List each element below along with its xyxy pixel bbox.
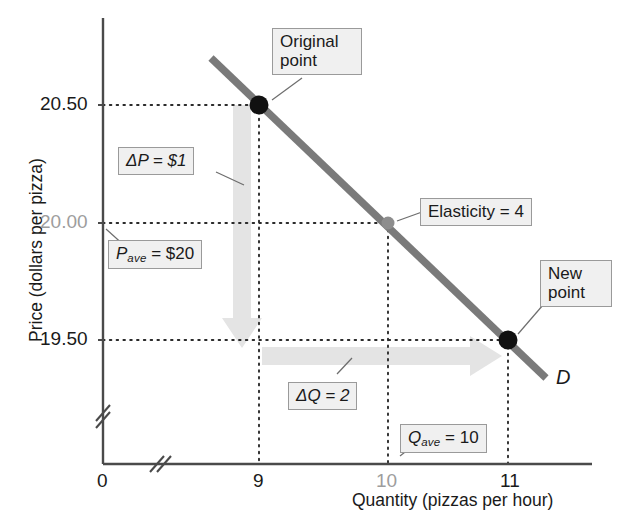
leader-original-point bbox=[272, 78, 302, 100]
y-tick-2000: 20.00 bbox=[40, 211, 88, 233]
callout-p-ave-subscript: ave bbox=[127, 252, 146, 264]
callout-elasticity-text: Elasticity = 4 bbox=[428, 202, 524, 221]
callout-elasticity[interactable]: Elasticity = 4 bbox=[420, 198, 532, 226]
delta-q-arrow bbox=[262, 336, 502, 376]
callout-q-ave-value: = 10 bbox=[440, 428, 478, 447]
callout-original-point[interactable]: Original point bbox=[272, 28, 362, 75]
callout-p-ave-symbol: P bbox=[116, 244, 127, 263]
y-axis-title: Price (dollars per pizza) bbox=[26, 158, 47, 342]
y-tick-2050: 20.50 bbox=[40, 93, 88, 115]
chart-svg bbox=[0, 0, 624, 522]
callout-delta-p[interactable]: ΔP = $1 bbox=[118, 147, 194, 175]
y-tick-1950: 19.50 bbox=[40, 328, 88, 350]
callout-q-ave-symbol: Q bbox=[408, 428, 421, 447]
x-tick-0: 0 bbox=[97, 470, 108, 492]
callout-new-point[interactable]: New point bbox=[540, 260, 612, 307]
callout-delta-q-text: ΔQ = 2 bbox=[296, 386, 349, 405]
callout-original-point-line2: point bbox=[280, 51, 354, 70]
data-point-new[interactable] bbox=[499, 331, 518, 350]
callout-q-ave-subscript: ave bbox=[421, 436, 440, 448]
leader-elasticity bbox=[397, 212, 422, 221]
x-axis-title: Quantity (pizzas per hour) bbox=[352, 490, 553, 511]
data-point-midpoint[interactable] bbox=[382, 217, 395, 230]
callout-q-ave[interactable]: Qave = 10 bbox=[400, 424, 487, 453]
callout-delta-q[interactable]: ΔQ = 2 bbox=[288, 382, 357, 410]
callout-new-point-line1: New bbox=[548, 264, 604, 283]
data-point-original[interactable] bbox=[250, 96, 269, 115]
callout-original-point-line1: Original bbox=[280, 32, 354, 51]
callout-p-ave-value: = $20 bbox=[147, 244, 195, 263]
callout-p-ave[interactable]: Pave = $20 bbox=[108, 240, 202, 269]
callout-delta-p-text: ΔP = $1 bbox=[126, 151, 186, 170]
demand-curve-label: D bbox=[556, 366, 570, 389]
x-tick-9: 9 bbox=[253, 470, 264, 492]
figure-canvas: Price (dollars per pizza) Quantity (pizz… bbox=[0, 0, 624, 522]
callout-new-point-line2: point bbox=[548, 283, 604, 302]
delta-p-arrow bbox=[222, 105, 262, 348]
x-tick-10: 10 bbox=[376, 470, 397, 492]
leader-new-point bbox=[518, 305, 543, 334]
x-tick-11: 11 bbox=[500, 470, 520, 492]
